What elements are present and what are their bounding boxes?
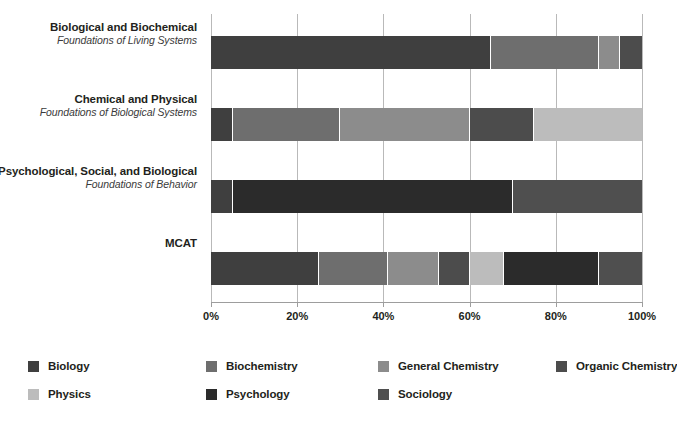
legend-label: Physics	[48, 388, 91, 400]
x-tick-label: 80%	[545, 310, 567, 322]
bar-segment[interactable]	[470, 252, 504, 285]
legend-label: Sociology	[398, 388, 452, 400]
x-tick-label: 0%	[203, 310, 219, 322]
legend-swatch-icon	[378, 389, 389, 400]
legend-item[interactable]: Biochemistry	[206, 360, 298, 372]
x-tick-100	[642, 302, 643, 307]
x-tick-label: 40%	[372, 310, 394, 322]
stacked-bar[interactable]	[211, 36, 642, 69]
x-tick-label: 100%	[628, 310, 656, 322]
x-tick-20	[297, 302, 298, 307]
x-axis-line	[211, 302, 642, 303]
legend-label: Organic Chemistry	[576, 360, 677, 372]
bar-segment[interactable]	[620, 36, 642, 69]
bar-row: Chemical and PhysicalFoundations of Biol…	[211, 92, 642, 164]
bar-row: MCAT	[211, 236, 642, 308]
x-tick-label: 60%	[459, 310, 481, 322]
bar-segment[interactable]	[439, 252, 469, 285]
legend-swatch-icon	[28, 361, 39, 372]
bar-segment[interactable]	[211, 252, 319, 285]
x-tick-40	[383, 302, 384, 307]
bar-segment[interactable]	[211, 36, 491, 69]
legend-swatch-icon	[28, 389, 39, 400]
bar-segment[interactable]	[319, 252, 388, 285]
plot-area: Biological and BiochemicalFoundations of…	[211, 14, 642, 302]
legend-item[interactable]: Psychology	[206, 388, 290, 400]
category-label-primary: Biological and Biochemical	[0, 20, 197, 34]
bar-segment[interactable]	[491, 36, 599, 69]
legend-swatch-icon	[206, 389, 217, 400]
legend-item[interactable]: Organic Chemistry	[556, 360, 677, 372]
category-label: Chemical and PhysicalFoundations of Biol…	[0, 92, 197, 120]
bar-segment[interactable]	[233, 108, 341, 141]
category-label: MCAT	[0, 236, 197, 250]
category-label-primary: Chemical and Physical	[0, 92, 197, 106]
category-label: Biological and BiochemicalFoundations of…	[0, 20, 197, 48]
legend-label: Psychology	[226, 388, 290, 400]
legend-item[interactable]: Biology	[28, 360, 89, 372]
legend-label: Biochemistry	[226, 360, 298, 372]
gridline-100	[642, 14, 643, 302]
bar-row: Psychological, Social, and BiologicalFou…	[211, 164, 642, 236]
bar-segment[interactable]	[233, 180, 513, 213]
x-tick-label: 20%	[286, 310, 308, 322]
legend-item[interactable]: Physics	[28, 388, 91, 400]
x-tick-60	[470, 302, 471, 307]
legend-swatch-icon	[206, 361, 217, 372]
legend-swatch-icon	[378, 361, 389, 372]
bar-row: Biological and BiochemicalFoundations of…	[211, 20, 642, 92]
category-label-secondary: Foundations of Biological Systems	[0, 106, 197, 119]
stacked-bar[interactable]	[211, 108, 642, 141]
bar-segment[interactable]	[388, 252, 440, 285]
legend-item[interactable]: General Chemistry	[378, 360, 499, 372]
bar-segment[interactable]	[534, 108, 642, 141]
category-label-secondary: Foundations of Living Systems	[0, 34, 197, 47]
bar-segment[interactable]	[470, 108, 535, 141]
x-tick-80	[556, 302, 557, 307]
bar-segment[interactable]	[513, 180, 642, 213]
legend-label: Biology	[48, 360, 89, 372]
category-label: Psychological, Social, and BiologicalFou…	[0, 164, 197, 192]
category-label-primary: Psychological, Social, and Biological	[0, 164, 197, 178]
bar-segment[interactable]	[599, 252, 642, 285]
stacked-bar[interactable]	[211, 180, 642, 213]
x-tick-0	[211, 302, 212, 307]
bar-segment[interactable]	[599, 36, 621, 69]
legend-label: General Chemistry	[398, 360, 499, 372]
category-label-primary: MCAT	[0, 236, 197, 250]
stacked-bar[interactable]	[211, 252, 642, 285]
bar-segment[interactable]	[211, 108, 233, 141]
bar-segment[interactable]	[211, 180, 233, 213]
legend-swatch-icon	[556, 361, 567, 372]
bar-segment[interactable]	[504, 252, 599, 285]
category-label-secondary: Foundations of Behavior	[0, 178, 197, 191]
legend-item[interactable]: Sociology	[378, 388, 452, 400]
bar-segment[interactable]	[340, 108, 469, 141]
